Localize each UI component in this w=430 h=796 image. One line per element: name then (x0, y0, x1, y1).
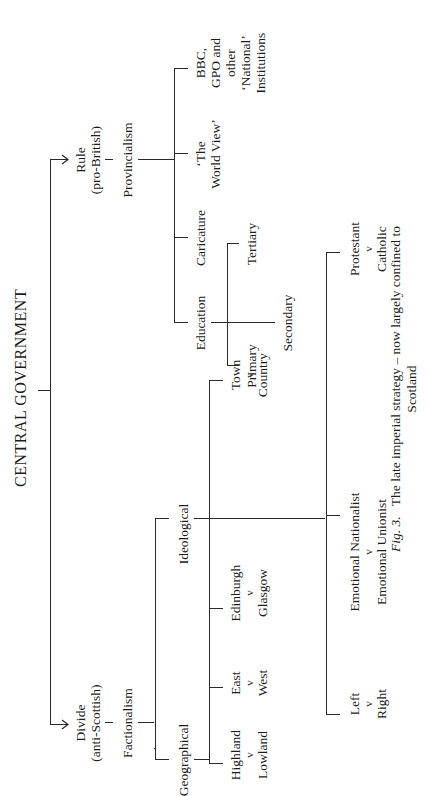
primary-connector (227, 365, 239, 366)
root-title: CENTRAL GOVERNMENT (12, 289, 30, 487)
world-view-label: ‘The World View’ (193, 119, 223, 188)
education-label: Education (193, 296, 208, 351)
caricature-connector (174, 237, 188, 238)
geographical-pairs-bar (209, 381, 210, 764)
main-branch-line (50, 159, 51, 725)
figure-caption: Fig. 3. The late imperial strategy – now… (388, 226, 420, 552)
factionalism-bar (155, 519, 156, 760)
pair-edinburgh-glasgow: Edinburgh v Glasgow (228, 565, 270, 622)
provincialism-label: Provincialism (120, 123, 135, 198)
rule-stem (105, 159, 113, 160)
figure-number: Fig. 3. (388, 516, 403, 552)
factionalism-stem (138, 722, 154, 723)
pair-connector (209, 763, 223, 764)
ideological-stem (194, 518, 325, 519)
pair-protestant-catholic: Protestant v Catholic (347, 222, 389, 276)
pair-nationalist-unionist: Emotional Nationalist v Emotional Unioni… (347, 493, 389, 612)
pair-left-right: Left v Right (347, 689, 389, 719)
pair-connector (326, 252, 340, 253)
pair-connector (209, 687, 223, 688)
world-view-connector (174, 153, 188, 154)
pair-east-west: East v West (228, 670, 270, 697)
arrow-down-icon (60, 153, 70, 165)
ideological-pairs-bar (326, 253, 327, 715)
institutions-connector (174, 68, 188, 69)
ideological-label: Ideological (176, 504, 191, 565)
secondary-label: Secondary (280, 295, 295, 352)
education-stem (211, 322, 227, 323)
root-stem (38, 390, 50, 391)
divide-label: Divide (anti-Scottish) (73, 684, 103, 761)
pair-connector (209, 608, 223, 609)
tertiary-label: Tertiary (244, 223, 259, 266)
secondary-connector (227, 322, 275, 323)
education-bar (227, 244, 228, 366)
geographical-connector (155, 759, 169, 760)
provincialism-stem (138, 159, 174, 160)
pair-connector (326, 714, 340, 715)
pair-connector (326, 515, 340, 516)
geographical-label: Geographical (176, 724, 191, 796)
provincialism-bar (174, 68, 175, 323)
pair-connector (209, 380, 223, 381)
rule-label: Rule (pro-British) (73, 126, 103, 194)
primary-label: Primary (244, 344, 259, 388)
education-connector (174, 322, 188, 323)
divide-stem (105, 722, 113, 723)
factionalism-label: Factionalism (120, 688, 135, 758)
pair-highland-lowland: Highland v Lowland (228, 730, 270, 780)
tertiary-connector (227, 243, 239, 244)
geographical-stem (194, 759, 209, 760)
arrow-down-icon (60, 718, 70, 730)
institutions-label: BBC, GPO and other ‘National’ Institutio… (193, 33, 268, 94)
caricature-label: Caricature (193, 210, 208, 266)
ideological-connector (155, 518, 169, 519)
